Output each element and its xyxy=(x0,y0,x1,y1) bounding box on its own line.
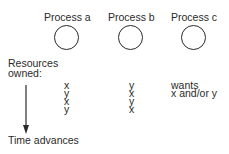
time-arrow-icon xyxy=(20,84,32,136)
row4-b: x xyxy=(129,104,134,114)
resources-label-line2: owned: xyxy=(8,68,42,78)
process-c-label: Process c xyxy=(171,12,217,22)
row2-c: x and/or y xyxy=(171,88,217,98)
time-label: Time advances xyxy=(8,135,79,145)
process-c-node xyxy=(181,25,206,50)
process-b-label: Process b xyxy=(108,12,155,22)
process-a-label: Process a xyxy=(44,12,91,22)
process-b-node xyxy=(118,25,143,50)
row4-a: y xyxy=(64,104,69,114)
process-a-node xyxy=(54,25,79,50)
